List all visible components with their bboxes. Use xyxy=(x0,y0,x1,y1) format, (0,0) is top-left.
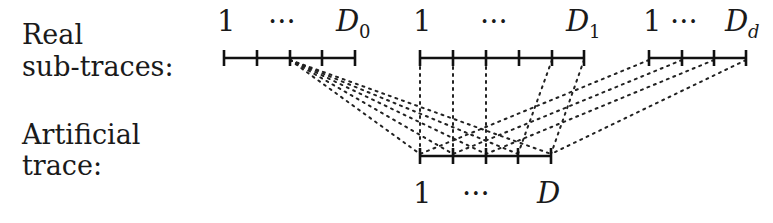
artificial-label-line1: Artificial xyxy=(21,119,140,150)
real-1-start-label: 1 xyxy=(413,4,431,38)
real-0-track-line xyxy=(224,50,355,66)
real-1-end-label: D xyxy=(565,4,589,38)
dotted-connection xyxy=(486,60,714,154)
real-0-ellipsis: ··· xyxy=(268,4,296,38)
dotted-connection xyxy=(290,60,486,154)
trace-mapping-diagram: Real sub-traces: Artificial trace: 1 ···… xyxy=(0,0,773,223)
real-d-track-line xyxy=(649,50,746,66)
real-d-end-subscript: d xyxy=(748,21,760,42)
dotted-connection xyxy=(290,60,453,154)
real-d-end-label: D xyxy=(724,4,748,38)
dotted-connection xyxy=(290,60,420,154)
real-d-ellipsis: ··· xyxy=(670,4,698,38)
artificial-start-label: 1 xyxy=(413,176,431,210)
real-1-end-subscript: 1 xyxy=(589,21,600,42)
real-subtrace-d: 1 ··· D d xyxy=(643,4,760,66)
artificial-label-line2: trace: xyxy=(22,150,102,181)
real-0-start-label: 1 xyxy=(217,4,235,38)
artificial-trace: 1 ··· D xyxy=(413,148,560,210)
dotted-connection xyxy=(551,60,584,154)
real-label-line1: Real xyxy=(22,19,83,50)
dotted-connection xyxy=(290,60,518,154)
real-subtrace-0: 1 ··· D 0 xyxy=(217,4,370,66)
dotted-connection xyxy=(518,60,552,154)
artificial-track-line xyxy=(420,148,551,164)
artificial-end-label: D xyxy=(536,176,560,210)
real-label-line2: sub-traces: xyxy=(22,51,174,82)
connection-lines xyxy=(290,60,746,154)
real-1-track-line xyxy=(420,50,584,66)
real-d-start-label: 1 xyxy=(643,4,661,38)
real-1-ellipsis: ··· xyxy=(480,4,508,38)
real-subtrace-1: 1 ··· D 1 xyxy=(413,4,600,66)
real-0-end-subscript: 0 xyxy=(359,21,370,42)
artificial-ellipsis: ··· xyxy=(462,176,490,210)
real-0-end-label: D xyxy=(335,4,359,38)
